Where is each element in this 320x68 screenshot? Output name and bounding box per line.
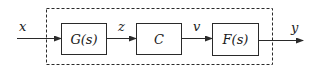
signal-label-y: y — [290, 20, 299, 35]
block-c-label: C — [154, 32, 164, 47]
signal-label-z: z — [117, 19, 125, 34]
signal-label-v: v — [193, 19, 201, 34]
block-f-label: F(s) — [222, 32, 249, 47]
signal-label-x: x — [19, 19, 27, 34]
block-diagram: x G(s) z C v F(s) y — [0, 0, 320, 68]
block-g-label: G(s) — [70, 32, 97, 47]
